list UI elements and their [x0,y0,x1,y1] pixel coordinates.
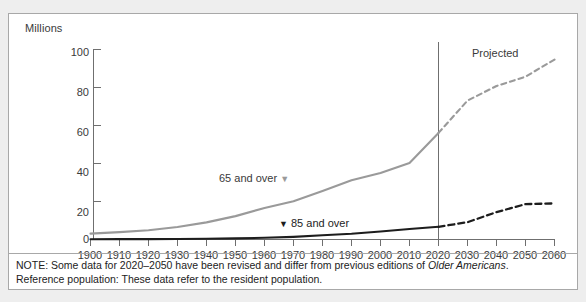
chart-figure: Millions 100 80 60 40 20 0 1900 1910 192… [8,13,578,290]
series-line-65-and-over-projected [439,60,555,133]
footnote-note-suffix: . [506,259,509,271]
series-label-65-text: 65 and over [219,172,277,184]
footnotes: NOTE: Some data for 2020–2050 have been … [9,253,577,289]
projected-annotation: Projected [472,47,518,59]
series-line-85-and-over-historical [91,227,439,240]
footnote-reference-population: Reference population: These data refer t… [16,272,571,286]
y-tick-label: 100 [59,46,89,58]
y-tick-label: 20 [59,206,89,218]
series-group [91,60,555,240]
x-axis-ticks [91,240,555,247]
down-triangle-icon: ▼ [280,174,289,184]
down-triangle-icon: ▼ [279,219,288,229]
series-label-85-and-over: ▼ 85 and over [279,217,349,229]
series-line-85-and-over-projected [439,203,555,226]
y-tick-label: 60 [59,126,89,138]
y-axis-ticks [94,50,102,202]
y-tick-label: 40 [59,166,89,178]
series-label-65-and-over: 65 and over ▼ [219,172,289,184]
y-axis-unit-label: Millions [25,22,62,34]
y-tick-label: 0 [59,233,89,245]
footnote-note-prefix: NOTE: Some data for 2020–2050 have been … [16,259,428,271]
footnote-note-italic: Older Americans [428,259,506,271]
y-tick-label: 80 [59,86,89,98]
plot-area: Millions 100 80 60 40 20 0 1900 1910 192… [9,14,578,256]
series-label-85-text: 85 and over [291,217,349,229]
footnote-note: NOTE: Some data for 2020–2050 have been … [16,258,571,272]
